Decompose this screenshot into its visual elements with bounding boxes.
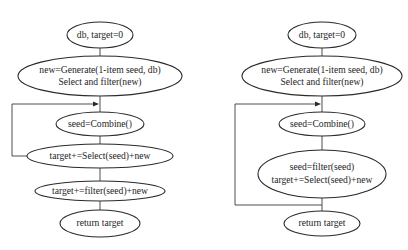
node-select-label: target+=Select(seed)+new	[50, 150, 151, 162]
arrowhead-icon	[93, 102, 99, 107]
node-return-label: return target	[77, 217, 124, 228]
node-combine: seed=Combine()	[56, 112, 144, 136]
node-combine: seed=Combine()	[279, 112, 365, 136]
flowchart-canvas: db, target=0 new=Generate(1-item seed, d…	[0, 0, 408, 250]
node-combine-label: seed=Combine()	[68, 118, 132, 130]
node-start-label: db, target=0	[77, 29, 123, 40]
node-generate-label-line1: new=Generate(1-item seed, db)	[39, 64, 160, 76]
flowchart-right: db, target=0 new=Generate(1-item seed, d…	[235, 22, 402, 236]
node-return: return target	[60, 210, 140, 237]
node-filter-select-label-line1: seed=filter(seed)	[290, 161, 355, 173]
node-select: target+=Select(seed)+new	[27, 144, 173, 168]
node-filter-select-label-line2: target+=Select(seed)+new	[272, 174, 373, 186]
node-generate: new=Generate(1-item seed, db) Select and…	[242, 56, 402, 96]
node-generate-label-line2: Select and filter(new)	[280, 76, 363, 88]
flowchart-left: db, target=0 new=Generate(1-item seed, d…	[12, 22, 182, 237]
node-generate: new=Generate(1-item seed, db) Select and…	[18, 56, 182, 96]
node-start: db, target=0	[67, 22, 133, 48]
node-generate-label-line2: Select and filter(new)	[58, 76, 141, 88]
node-generate-label-line1: new=Generate(1-item seed, db)	[261, 64, 382, 76]
node-combine-label: seed=Combine()	[290, 118, 354, 130]
node-return-label: return target	[299, 217, 346, 228]
arrowhead-icon	[315, 102, 321, 107]
node-start-label: db, target=0	[299, 29, 345, 40]
node-return: return target	[284, 211, 360, 236]
node-start: db, target=0	[288, 22, 356, 48]
node-filter-select: seed=filter(seed) target+=Select(seed)+n…	[258, 150, 386, 198]
node-filter: target+=filter(seed)+new	[35, 181, 165, 201]
node-filter-label: target+=filter(seed)+new	[52, 185, 148, 197]
